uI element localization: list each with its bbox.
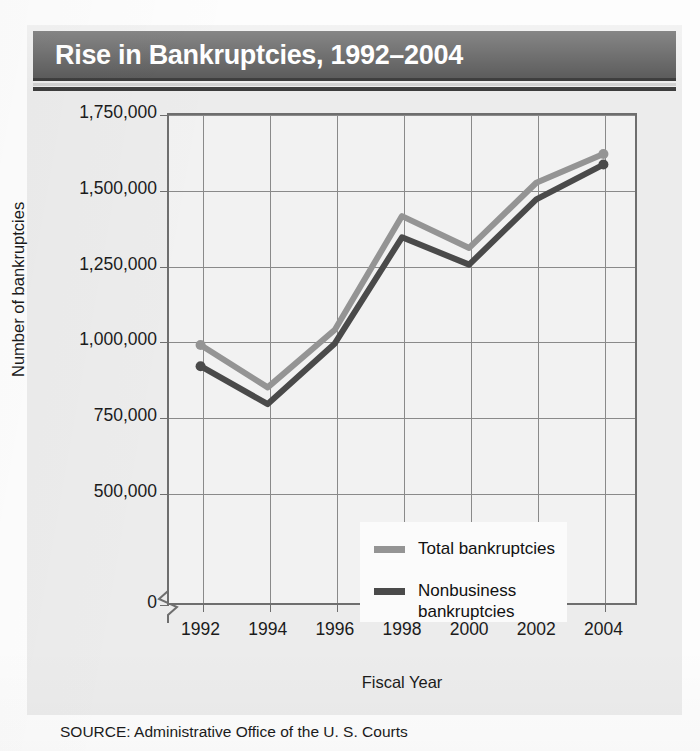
x-axis-tick-label: 1992 xyxy=(181,619,220,640)
legend-item: Total bankruptcies xyxy=(374,538,555,559)
page-background: Rise in Bankruptcies, 1992–2004 0500,000… xyxy=(0,0,700,751)
legend-item: Nonbusinessbankruptcies xyxy=(374,580,516,623)
plot-wrapper: 0500,000750,0001,000,0001,250,0001,500,0… xyxy=(27,25,682,715)
x-axis-tick-label: 2002 xyxy=(517,619,556,640)
legend-swatch-icon xyxy=(374,588,405,595)
legend-swatch-icon xyxy=(374,546,405,553)
legend-label: Total bankruptcies xyxy=(418,538,555,559)
chart-legend: Total bankruptciesNonbusinessbankruptcie… xyxy=(360,522,567,622)
x-axis-tick-label: 2004 xyxy=(584,619,623,640)
y-axis-tick-label: 0 xyxy=(147,592,157,613)
y-axis-tick-label: 1,500,000 xyxy=(79,178,157,199)
chart-figure: Rise in Bankruptcies, 1992–2004 0500,000… xyxy=(27,25,682,715)
y-axis-tick-label: 1,250,000 xyxy=(79,254,157,275)
data-point-marker xyxy=(598,160,608,170)
y-axis-tick-label: 1,000,000 xyxy=(79,329,157,350)
chart-source-note: SOURCE: Administrative Office of the U. … xyxy=(60,723,408,741)
y-axis-title: Number of bankruptcies xyxy=(9,147,28,377)
x-axis-tick-label: 1996 xyxy=(315,619,354,640)
series-line-nonbusiness-bankruptcies xyxy=(201,165,604,405)
y-axis-tick-labels: 0500,000750,0001,000,0001,250,0001,500,0… xyxy=(27,25,157,715)
legend-label: Nonbusinessbankruptcies xyxy=(418,580,516,623)
y-axis-tick-label: 750,000 xyxy=(94,405,157,426)
x-axis-title: Fiscal Year xyxy=(167,673,637,692)
y-axis-tick xyxy=(160,605,169,606)
data-point-marker xyxy=(196,361,206,371)
y-axis-tick-label: 1,750,000 xyxy=(79,102,157,123)
data-point-marker xyxy=(598,149,608,159)
y-axis-tick-label: 500,000 xyxy=(94,481,157,502)
x-axis-tick-label: 1994 xyxy=(248,619,287,640)
series-line-total-bankruptcies xyxy=(201,154,604,387)
data-point-marker xyxy=(196,340,206,350)
